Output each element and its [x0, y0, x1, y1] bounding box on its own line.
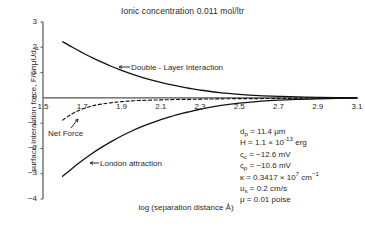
annotation-double-layer-interaction: Double - Layer Interaction: [131, 63, 223, 72]
arrow-net-force: [71, 119, 78, 128]
parameter-line-5: us = 0.2 cm/s: [240, 183, 319, 194]
x-tick-3-1: 3.1: [344, 102, 365, 111]
x-tick-2-9: 2.9: [305, 102, 331, 111]
parameter-line-2: ςc = −12.6 mV: [240, 149, 319, 160]
parameter-line-0: dp = 11.4 μm: [240, 126, 319, 137]
x-tick-1-9: 1.9: [109, 102, 135, 111]
x-tick-2-7: 2.7: [266, 102, 292, 111]
parameter-line-1: H = 1.1 × 10-13 erg: [240, 137, 319, 148]
arrow-double-layer: [119, 66, 130, 69]
x-tick-2-3: 2.3: [187, 102, 213, 111]
parameter-line-4: κ = 0.3417 × 107 cm−1: [240, 172, 319, 183]
x-tick-2-5: 2.5: [226, 102, 252, 111]
annotation-arrows: [71, 66, 130, 165]
y-axis-label: surface interaction force, F/6πμUdp: [29, 15, 38, 205]
parameter-list: dp = 11.4 μmH = 1.1 × 10-13 ergςc = −12.…: [240, 126, 319, 206]
parameter-line-6: μ = 0.01 poise: [240, 194, 319, 205]
x-tick-2-1: 2.1: [148, 102, 174, 111]
x-tick-1-7: 1.7: [69, 102, 95, 111]
arrow-london: [90, 162, 99, 165]
parameter-line-3: ςp = −10.6 mV: [240, 160, 319, 171]
annotation-net-force: Net Force: [48, 129, 83, 138]
y-axis-label-text: surface interaction force, F/6πμUdp: [29, 47, 38, 172]
annotation-london-attraction: London attraction: [100, 159, 162, 168]
